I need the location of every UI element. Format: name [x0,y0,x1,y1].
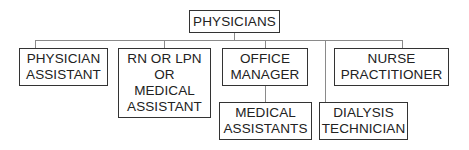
node-physician-assistant: PHYSICIAN ASSISTANT [19,48,108,86]
node-label-line: PRACTITIONER [341,67,443,83]
node-office-manager: OFFICE MANAGER [222,48,308,86]
node-nurse-practitioner: NURSE PRACTITIONER [334,48,449,86]
node-label-line: OR [154,67,174,83]
node-label-line: MEDICAL [235,105,296,121]
node-label-line: ASSISTANTS [223,121,307,137]
node-label-line: OFFICE [240,51,290,67]
node-label: PHYSICIANS [193,14,276,30]
node-label-line: ASSISTANT [127,99,202,115]
node-label-line: ASSISTANT [26,67,101,83]
connector-medical-assistants [265,86,266,102]
node-label-line: MEDICAL [134,83,195,99]
node-label-line: DIALYSIS [333,105,394,121]
node-label-line: PHYSICIAN [27,51,101,67]
node-dialysis-technician: DIALYSIS TECHNICIAN [319,102,408,140]
org-chart: PHYSICIANS PHYSICIAN ASSISTANT RN OR LPN… [0,0,469,150]
connector-nurse-practitioner [402,40,403,48]
node-rn-lpn-medical-assistant: RN OR LPN OR MEDICAL ASSISTANT [118,48,211,118]
node-label-line: NURSE [368,51,416,67]
connector-physician-assistant [35,40,36,48]
connector-dialysis-technician [325,40,326,102]
node-label-line: TECHNICIAN [322,121,406,137]
connector-office-manager [265,40,266,48]
node-label-line: MANAGER [231,67,300,83]
connector-horizontal-bus [35,40,403,41]
node-medical-assistants: MEDICAL ASSISTANTS [219,102,312,140]
connector-rn-lpn [164,40,165,48]
node-physicians: PHYSICIANS [189,10,280,33]
node-label-line: RN OR LPN [127,51,201,67]
